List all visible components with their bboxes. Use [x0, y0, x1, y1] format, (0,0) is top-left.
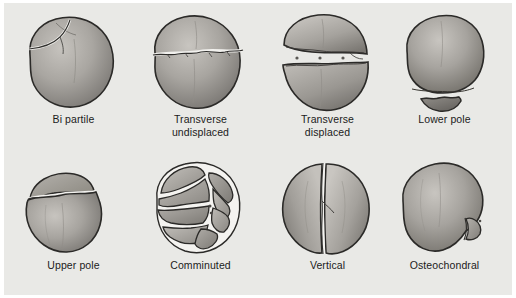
caption-line-1: Transverse: [301, 113, 354, 125]
figure-panel: Bi partile: [4, 3, 512, 295]
caption-line-1: Bi partile: [53, 113, 95, 125]
panel-transverse-displaced: Transverse displaced: [264, 9, 391, 155]
illustration-vertical: [264, 155, 391, 263]
panel-upper-pole: Upper pole: [10, 155, 137, 298]
panel-bi-partile: Bi partile: [10, 9, 137, 155]
caption-upper-pole: Upper pole: [10, 259, 137, 272]
panel-grid: Bi partile: [4, 3, 512, 295]
illustration-comminuted: [137, 155, 264, 263]
caption-comminuted: Comminuted: [137, 259, 264, 272]
panel-lower-pole: Lower pole: [381, 9, 508, 155]
caption-line-1: Osteochondral: [410, 259, 480, 271]
panel-osteochondral: Osteochondral: [381, 155, 508, 298]
panel-transverse-undisplaced: Transverse undisplaced: [137, 9, 264, 155]
illustration-lower-pole: [381, 9, 508, 117]
caption-lower-pole: Lower pole: [381, 113, 508, 126]
caption-line-1: Vertical: [310, 259, 345, 271]
illustration-bi-partile: [10, 9, 137, 117]
caption-line-1: Comminuted: [170, 259, 231, 271]
panel-vertical: Vertical: [264, 155, 391, 298]
caption-line-1: Lower pole: [418, 113, 470, 125]
illustration-upper-pole: [10, 155, 137, 263]
caption-line-1: Upper pole: [47, 259, 99, 271]
illustration-transverse-displaced: [264, 9, 391, 117]
caption-line-1: Transverse: [174, 113, 227, 125]
caption-line-2: displaced: [264, 126, 391, 139]
caption-line-2: undisplaced: [137, 126, 264, 139]
illustration-osteochondral: [381, 155, 508, 263]
illustration-transverse-undisplaced: [137, 9, 264, 117]
caption-vertical: Vertical: [264, 259, 391, 272]
caption-transverse-undisplaced: Transverse undisplaced: [137, 113, 264, 138]
caption-osteochondral: Osteochondral: [381, 259, 508, 272]
panel-comminuted: Comminuted: [137, 155, 264, 298]
caption-transverse-displaced: Transverse displaced: [264, 113, 391, 138]
caption-bi-partile: Bi partile: [10, 113, 137, 126]
